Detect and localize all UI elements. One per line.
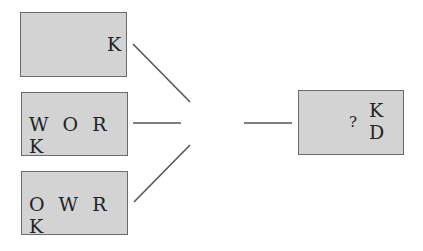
box-top: K <box>20 12 127 77</box>
box-middle-label: W O R K <box>29 113 127 157</box>
result-line2: D <box>369 121 384 143</box>
result-line1: K <box>369 99 383 121</box>
result-question: ? <box>349 113 357 131</box>
connector-top <box>133 44 190 102</box>
box-bottom: O W R K <box>21 171 128 235</box>
diagram: K W O R K O W R K ? K D <box>0 0 423 251</box>
result-box: ? K D <box>298 90 404 155</box>
box-top-label: K <box>107 33 121 55</box>
box-bottom-label: O W R K <box>29 193 127 237</box>
connector-bottom <box>134 145 190 202</box>
box-middle: W O R K <box>21 92 128 156</box>
